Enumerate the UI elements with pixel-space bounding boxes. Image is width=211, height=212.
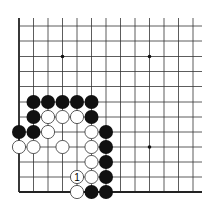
black-stone-icon xyxy=(85,110,99,124)
black-stone[interactable] xyxy=(85,95,99,109)
black-stone[interactable] xyxy=(41,95,55,109)
go-board[interactable]: 1 xyxy=(0,0,211,212)
black-stone-icon xyxy=(27,125,41,139)
white-stone-icon xyxy=(70,110,83,123)
black-stone[interactable] xyxy=(99,155,113,169)
white-stone-icon xyxy=(12,140,25,153)
black-stone-icon xyxy=(99,170,113,184)
white-stone-icon xyxy=(85,125,98,138)
white-stone[interactable] xyxy=(12,140,25,153)
black-stone[interactable] xyxy=(27,95,41,109)
white-stone[interactable] xyxy=(85,155,98,168)
white-stone[interactable] xyxy=(70,185,83,198)
star-point xyxy=(148,145,152,149)
black-stone[interactable] xyxy=(12,125,26,139)
white-stone-icon xyxy=(56,140,69,153)
white-stone-icon xyxy=(85,170,98,183)
black-stone-icon xyxy=(27,95,41,109)
black-stone-icon xyxy=(85,185,99,199)
white-stone[interactable] xyxy=(41,110,54,123)
black-stone[interactable] xyxy=(99,170,113,184)
black-stone-icon xyxy=(41,95,55,109)
black-stone-icon xyxy=(12,125,26,139)
white-stone[interactable] xyxy=(70,110,83,123)
star-point xyxy=(148,55,152,59)
black-stone[interactable] xyxy=(85,110,99,124)
black-stone-icon xyxy=(99,140,113,154)
white-stone[interactable]: 1 xyxy=(70,170,83,183)
black-stone[interactable] xyxy=(27,125,41,139)
black-stone[interactable] xyxy=(27,110,41,124)
white-stone[interactable] xyxy=(85,125,98,138)
black-stone[interactable] xyxy=(99,185,113,199)
black-stone[interactable] xyxy=(70,95,84,109)
white-stone[interactable] xyxy=(85,140,98,153)
white-stone-icon xyxy=(41,125,54,138)
black-stone[interactable] xyxy=(99,140,113,154)
black-stone-icon xyxy=(99,155,113,169)
white-stone-icon xyxy=(27,140,40,153)
white-stone[interactable] xyxy=(56,140,69,153)
white-stone-icon xyxy=(41,110,54,123)
black-stone-icon xyxy=(70,95,84,109)
black-stone[interactable] xyxy=(85,185,99,199)
black-stone-icon xyxy=(56,95,70,109)
white-stone-icon xyxy=(56,110,69,123)
white-stone-icon xyxy=(85,155,98,168)
black-stone-icon xyxy=(85,95,99,109)
star-point xyxy=(61,55,65,59)
black-stone-icon xyxy=(99,125,113,139)
white-stone[interactable] xyxy=(27,140,40,153)
black-stone[interactable] xyxy=(99,125,113,139)
black-stone-icon xyxy=(99,185,113,199)
white-stone[interactable] xyxy=(85,170,98,183)
move-number-label: 1 xyxy=(74,172,80,183)
white-stone[interactable] xyxy=(56,110,69,123)
white-stone-icon xyxy=(70,185,83,198)
black-stone[interactable] xyxy=(56,95,70,109)
white-stone[interactable] xyxy=(41,125,54,138)
white-stone-icon xyxy=(85,140,98,153)
black-stone-icon xyxy=(27,110,41,124)
